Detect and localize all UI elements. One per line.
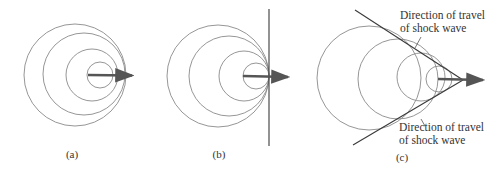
panel-c: Direction of travel of shock wave Direct… xyxy=(317,9,485,164)
velocity-arrow-icon xyxy=(243,76,288,77)
panel-a: (a) xyxy=(24,24,132,161)
panel-b-label: (b) xyxy=(213,148,226,161)
panel-a-label: (a) xyxy=(66,148,79,161)
lower-annotation-line1: Direction of travel xyxy=(399,121,484,133)
velocity-arrow-icon xyxy=(438,79,483,80)
doppler-shock-wave-figure: (a) (b) Direction of travel of shock wav… xyxy=(0,0,504,177)
upper-annotation-leader xyxy=(415,37,421,48)
panel-c-label: (c) xyxy=(396,151,409,164)
panel-b: (b) xyxy=(167,9,288,161)
upper-annotation-line1: Direction of travel xyxy=(400,9,485,21)
lower-annotation-line2: of shock wave xyxy=(399,134,465,146)
velocity-arrow-icon xyxy=(88,75,132,76)
upper-annotation-line2: of shock wave xyxy=(400,22,466,34)
